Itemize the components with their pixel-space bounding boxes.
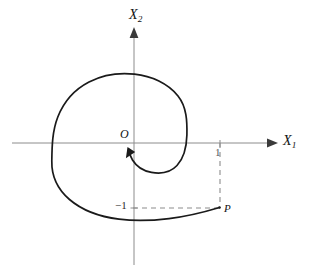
trajectory-group (52, 74, 221, 221)
x-tick-label-one: 1 (215, 147, 221, 158)
y-tick-label-minus-one: −1 (115, 200, 127, 211)
point-p-marker (218, 206, 221, 209)
point-p-label: P (224, 203, 231, 214)
x-axis-arrowhead-icon (267, 139, 278, 148)
guide-lines-group (131, 140, 221, 208)
y-axis-group (130, 27, 139, 265)
figure-canvas: X1 X2 O P 1 −1 (0, 0, 310, 278)
x-axis-label: X1 (283, 134, 296, 150)
y-axis-label: X2 (129, 8, 142, 24)
spiral-trajectory-path (52, 74, 220, 221)
spiral-phase-portrait-svg (0, 0, 310, 278)
y-axis-arrowhead-icon (130, 27, 139, 38)
origin-label: O (120, 128, 129, 140)
